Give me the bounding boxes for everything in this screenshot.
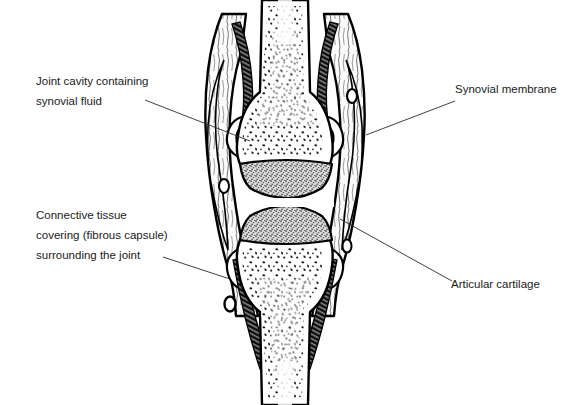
label-articular-cartilage: Articular cartilage: [451, 278, 540, 290]
connective-tissue-line2: covering (fibrous capsule): [36, 229, 168, 241]
vascular-channel: [219, 179, 229, 193]
joint-cavity-space: [238, 198, 334, 207]
synovial-joint-diagram: Joint cavity containing synovial fluid S…: [0, 0, 570, 405]
joint-cavity-line1: Joint cavity containing: [36, 75, 149, 87]
vascular-channel: [343, 240, 352, 253]
label-synovial-membrane: Synovial membrane: [455, 83, 557, 95]
articular-cartilage-line1: Articular cartilage: [451, 278, 540, 290]
connective-tissue-line3: surrounding the joint: [36, 249, 141, 261]
vascular-channel: [347, 89, 357, 103]
connective-tissue-line1: Connective tissue: [36, 209, 127, 221]
joint-cavity-line2: synovial fluid: [36, 95, 102, 107]
vascular-channel: [225, 297, 236, 312]
synovial-membrane-line1: Synovial membrane: [455, 83, 557, 95]
